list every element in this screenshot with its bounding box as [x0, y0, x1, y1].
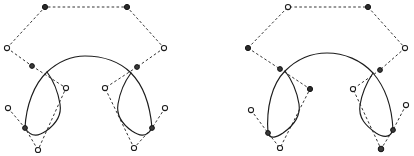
right-spline-diagram-cp-inner-right[interactable] — [350, 86, 355, 91]
right-spline-diagram-cp-mid-left[interactable] — [245, 45, 250, 50]
right-spline-diagram-cp-mid-right[interactable] — [402, 45, 407, 50]
right-lower-left-polygon — [251, 110, 280, 148]
left-spline-diagram-knot-upper-right[interactable] — [135, 65, 140, 70]
figure-root — [0, 0, 414, 156]
right-inner-right-cusp — [360, 73, 393, 136]
right-spline-diagram-knot-lower-left[interactable] — [266, 131, 271, 136]
right-spline-diagram-knot-upper-right[interactable] — [378, 68, 383, 73]
right-spline-diagram — [245, 4, 408, 151]
right-lower-right-polygon — [381, 105, 406, 149]
right-spline-diagram-cp-lower-far-right[interactable] — [403, 102, 408, 107]
right-spline-diagram-knot-upper-left[interactable] — [278, 67, 283, 72]
right-spline-diagram-cp-top-left[interactable] — [285, 4, 290, 9]
right-main-loop — [268, 53, 393, 133]
left-spline-diagram-cp-top-left[interactable] — [42, 4, 47, 9]
right-spline-diagram-cp-lower-far-left[interactable] — [248, 107, 253, 112]
left-spline-diagram-cp-lower-far-left[interactable] — [5, 105, 10, 110]
right-upper-right-tangent — [380, 48, 405, 70]
left-spline-diagram-cp-mid-right[interactable] — [161, 45, 166, 50]
right-upper-left-tangent — [248, 48, 280, 69]
left-spline-diagram-cp-inner-right[interactable] — [102, 85, 107, 90]
right-spline-diagram-cp-top-right[interactable] — [365, 4, 370, 9]
left-spline-diagram-knot-lower-right[interactable] — [150, 126, 155, 131]
right-inner-left-cusp — [268, 71, 299, 137]
left-upper-right-tangent — [137, 48, 164, 67]
left-spline-diagram — [4, 4, 167, 152]
right-upper-control-polygon — [248, 7, 405, 48]
left-spline-diagram-cp-bottom-right[interactable] — [131, 145, 136, 150]
left-spline-diagram-cp-lower-far-right[interactable] — [162, 105, 167, 110]
left-spline-diagram-cp-bottom-left[interactable] — [35, 147, 40, 152]
spline-figure-canvas — [0, 0, 414, 156]
left-spline-diagram-cp-top-right[interactable] — [124, 4, 129, 9]
right-spline-diagram-cp-bottom-left[interactable] — [277, 145, 282, 150]
right-inner-right-polygon — [353, 70, 381, 149]
right-spline-diagram-cp-bottom-right[interactable] — [378, 146, 384, 152]
left-inner-left-cusp — [25, 72, 60, 135]
left-inner-right-polygon — [105, 67, 137, 148]
right-inner-left-polygon — [280, 69, 310, 148]
left-main-loop — [25, 56, 152, 128]
left-spline-diagram-cp-inner-left[interactable] — [63, 85, 68, 90]
left-spline-diagram-knot-upper-left[interactable] — [30, 64, 35, 69]
left-upper-control-polygon — [7, 7, 164, 48]
right-spline-diagram-knot-lower-right[interactable] — [391, 128, 396, 133]
right-spline-diagram-cp-inner-left[interactable] — [307, 86, 312, 91]
left-spline-diagram-cp-mid-left[interactable] — [4, 45, 9, 50]
left-spline-diagram-knot-lower-left[interactable] — [23, 126, 28, 131]
left-upper-left-tangent — [7, 48, 32, 66]
